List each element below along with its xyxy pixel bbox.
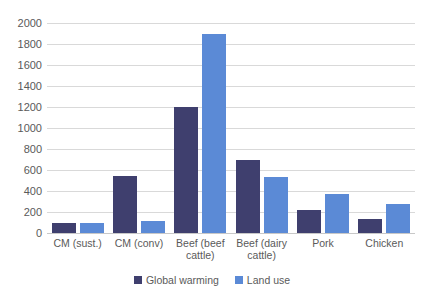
y-axis-tick-label: 200 [0, 207, 42, 218]
legend-label: Land use [247, 275, 290, 286]
x-axis-tick-label: Beef (dairy cattle) [231, 237, 292, 261]
bar-group [47, 23, 108, 233]
y-axis-tick-label: 400 [0, 186, 42, 197]
bar-group [170, 23, 231, 233]
x-axis-tick-label: Pork [292, 237, 353, 261]
y-axis-tick-label: 1800 [0, 39, 42, 50]
bar [236, 160, 260, 234]
x-axis-tick-label: CM (conv) [108, 237, 169, 261]
y-axis-tick-label: 800 [0, 144, 42, 155]
bar [141, 221, 165, 233]
bar-group [231, 23, 292, 233]
x-axis-tick-label: Beef (beef cattle) [170, 237, 231, 261]
y-axis-tick-label: 1200 [0, 102, 42, 113]
bar [80, 223, 104, 234]
bar-group [292, 23, 353, 233]
x-axis-labels: CM (sust.)CM (conv)Beef (beef cattle)Bee… [47, 237, 415, 261]
x-axis-tick-label: Chicken [354, 237, 415, 261]
bar [202, 34, 226, 234]
bar [52, 223, 76, 234]
x-axis-tick-label: CM (sust.) [47, 237, 108, 261]
y-axis-tick-label: 2000 [0, 18, 42, 29]
bar [174, 107, 198, 233]
legend-swatch-icon [235, 276, 243, 284]
bar-groups [47, 23, 415, 233]
legend: Global warmingLand use [0, 275, 424, 286]
legend-item[interactable]: Global warming [134, 275, 219, 286]
bar-group [108, 23, 169, 233]
axis-baseline [47, 233, 415, 234]
bar [113, 176, 137, 233]
bar [325, 194, 349, 233]
bar [386, 204, 410, 233]
legend-swatch-icon [134, 276, 142, 284]
y-axis-tick-label: 600 [0, 165, 42, 176]
bar [297, 210, 321, 233]
bar-group [354, 23, 415, 233]
bar [358, 219, 382, 233]
legend-label: Global warming [146, 275, 219, 286]
y-axis-tick-label: 0 [0, 228, 42, 239]
y-axis-tick-label: 1000 [0, 123, 42, 134]
bar [264, 177, 288, 233]
y-axis-tick-label: 1400 [0, 81, 42, 92]
bar-chart: 0200400600800100012001400160018002000 CM… [0, 0, 424, 303]
y-axis-tick-label: 1600 [0, 60, 42, 71]
legend-item[interactable]: Land use [235, 275, 290, 286]
